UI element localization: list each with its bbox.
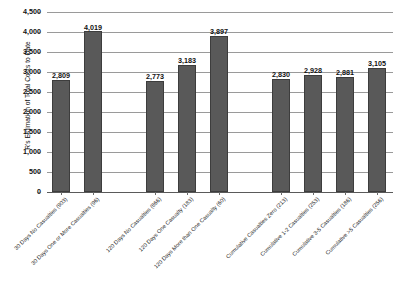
y-tick-mark [37, 132, 41, 133]
x-tick-mark [281, 192, 282, 195]
y-tick-label: 4,500 [7, 8, 41, 15]
bar: 3,897 [210, 36, 228, 192]
y-tick-mark [37, 192, 41, 193]
bar-value-label: 2,773 [146, 73, 164, 80]
y-tick-mark [37, 112, 41, 113]
y-tick-label: 4,000 [7, 28, 41, 35]
x-tick-mark [345, 192, 346, 195]
x-tick-mark [61, 192, 62, 195]
bar: 2,928 [304, 75, 322, 192]
x-axis-line [47, 192, 393, 193]
y-tick-label: 3,500 [7, 48, 41, 55]
y-tick-mark [37, 72, 41, 73]
x-tick-mark [219, 192, 220, 195]
y-tick-label: 2,500 [7, 88, 41, 95]
y-tick-mark [37, 92, 41, 93]
y-tick-mark [37, 152, 41, 153]
x-tick-mark [377, 192, 378, 195]
bar: 2,830 [272, 79, 290, 192]
bar-value-label: 2,881 [336, 69, 354, 76]
bar-chart: R's Estimation of Total Costs to Date 4,… [0, 0, 401, 298]
y-tick-mark [37, 32, 41, 33]
x-tick-mark [187, 192, 188, 195]
x-tick-mark [93, 192, 94, 195]
y-tick-label: 500 [7, 168, 41, 175]
bar: 3,183 [178, 65, 196, 192]
bar-value-label: 3,897 [210, 28, 228, 35]
bar-value-label: 3,105 [368, 60, 386, 67]
y-tick-label: 1,500 [7, 128, 41, 135]
bar: 2,809 [52, 80, 70, 192]
x-axis-category-label: Cumulative 3-5 Casualties (186) [291, 196, 352, 257]
y-tick-label: 3,000 [7, 68, 41, 75]
bar: 2,773 [146, 81, 164, 192]
x-axis-category-label: 120 Days One Casualty (183) [138, 196, 195, 253]
bar: 2,881 [336, 77, 354, 192]
x-axis-category-label: 30 Days One or More Casualties (96) [30, 196, 100, 266]
bar-value-label: 2,928 [304, 67, 322, 74]
x-axis-category-label: 120 Days No Casualties (866) [105, 196, 162, 253]
y-tick-mark [37, 172, 41, 173]
bar-value-label: 4,019 [84, 24, 102, 31]
bar-value-label: 2,830 [272, 71, 290, 78]
bar: 3,105 [368, 68, 386, 192]
x-axis-category-label: 120 Days More than One Casualty (60) [153, 196, 227, 270]
y-tick-label: 1,000 [7, 148, 41, 155]
x-tick-mark [155, 192, 156, 195]
y-tick-label: 2,000 [7, 108, 41, 115]
x-axis-category-label: 30 Days No Casualties (903) [13, 196, 68, 251]
bar-value-label: 2,809 [52, 72, 70, 79]
x-axis-category-label: Cumulative >5 Casualties (256) [324, 196, 384, 256]
x-axis-category-label: Cumulative 1-2 Casualties (253) [259, 196, 320, 257]
bar: 4,019 [84, 31, 102, 192]
y-tick-label: 0 [7, 188, 41, 195]
x-axis-category-label: Cumulative Casualties Zero (213) [225, 196, 289, 260]
y-axis-ticks: 4,5004,0003,5003,0002,5002,0001,5001,000… [0, 12, 41, 192]
bar-value-label: 3,183 [178, 57, 196, 64]
bars-layer: 2,8094,0192,7733,1833,8972,8302,9282,881… [47, 12, 393, 192]
y-tick-mark [37, 52, 41, 53]
x-tick-mark [313, 192, 314, 195]
y-tick-mark [37, 12, 41, 13]
